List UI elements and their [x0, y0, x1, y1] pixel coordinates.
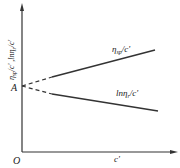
upper-line	[52, 50, 155, 77]
upper-line-label: ηsp/c'	[112, 44, 131, 55]
x-axis-label: c'	[114, 154, 121, 164]
upper-line-extrapolation	[22, 77, 52, 86]
y-axis-arrow-icon	[20, 3, 24, 11]
lower-line-extrapolation	[22, 86, 52, 94]
x-axis-arrow-icon	[170, 150, 178, 154]
y-axis-label: ηsp/c' ,lnηr/c'	[7, 40, 17, 80]
lower-line	[52, 94, 158, 111]
origin-label: O	[13, 155, 20, 166]
lower-line-label: lnηr/c'	[116, 88, 139, 99]
chart-canvas: A O c' ηsp/c' lnηr/c' ηsp/c' ,lnηr/c'	[0, 0, 180, 168]
intercept-label: A	[10, 82, 18, 93]
